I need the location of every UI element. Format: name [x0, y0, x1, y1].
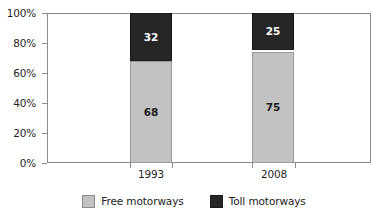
y-tick-mark-80: [42, 43, 47, 44]
y-tick-label-20: 20%: [0, 128, 36, 139]
bar-group-2008[interactable]: 25 75: [252, 13, 294, 163]
legend-swatch-icon-toll: [210, 195, 223, 208]
y-tick-mark-20: [42, 133, 47, 134]
y-tick-label-60: 60%: [0, 68, 36, 79]
legend-label-free: Free motorways: [101, 195, 183, 207]
y-tick-label-80: 80%: [0, 38, 36, 49]
x-tick-label-2008: 2008: [234, 168, 314, 180]
y-tick-label-40: 40%: [0, 98, 36, 109]
bar-segment-toll-1993[interactable]: 32: [130, 13, 172, 61]
bar-label-toll-2008: 25: [266, 26, 280, 37]
y-tick-mark-40: [42, 103, 47, 104]
bar-label-free-2008: 75: [266, 102, 280, 113]
bar-segment-toll-2008[interactable]: 25: [252, 13, 294, 50]
bar-label-free-1993: 68: [144, 107, 158, 118]
stacked-bar-chart: 100% 80% 60% 40% 20% 0% 32 68 25 75 1993…: [0, 0, 388, 221]
plot-area: [47, 13, 371, 163]
y-tick-label-100: 100%: [0, 8, 36, 19]
bar-group-1993[interactable]: 32 68: [130, 13, 172, 163]
y-tick-mark-100: [42, 13, 47, 14]
bar-segment-free-2008[interactable]: 75: [252, 52, 294, 163]
bar-label-toll-1993: 32: [144, 32, 158, 43]
bar-segment-free-1993[interactable]: 68: [130, 61, 172, 163]
y-tick-mark-0: [42, 163, 47, 164]
y-tick-label-0: 0%: [0, 158, 36, 169]
y-tick-mark-60: [42, 73, 47, 74]
legend-item-free-motorways[interactable]: Free motorways: [82, 195, 183, 208]
legend-item-toll-motorways[interactable]: Toll motorways: [210, 195, 306, 208]
x-tick-label-1993: 1993: [111, 168, 191, 180]
legend-label-toll: Toll motorways: [229, 195, 306, 207]
y-axis: 100% 80% 60% 40% 20% 0%: [0, 0, 44, 221]
chart-legend: Free motorways Toll motorways: [0, 190, 388, 212]
legend-swatch-icon-free: [82, 195, 95, 208]
